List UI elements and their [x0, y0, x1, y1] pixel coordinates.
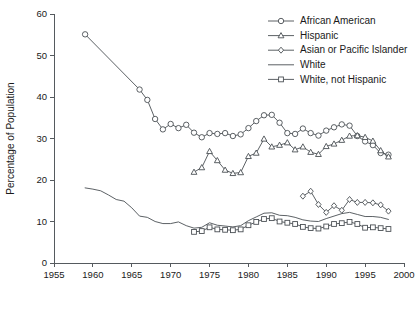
y-tick-label: 10	[36, 216, 47, 227]
legend-label: Hispanic	[300, 30, 338, 41]
data-point-marker	[324, 128, 329, 133]
data-point-marker	[308, 149, 314, 154]
data-point-marker	[199, 165, 205, 170]
series-line	[303, 191, 389, 212]
legend-marker-diamond	[278, 47, 283, 53]
data-point-marker	[215, 227, 220, 232]
chart-legend: African AmericanHispanicAsian or Pacific…	[268, 15, 408, 84]
legend-marker-square	[279, 77, 284, 82]
data-point-marker	[370, 225, 375, 230]
data-point-marker	[339, 221, 344, 226]
x-tick-label: 2000	[393, 269, 414, 280]
x-tick-label: 1965	[121, 269, 142, 280]
data-point-marker	[285, 130, 290, 135]
data-point-marker	[207, 148, 213, 153]
legend-item-asian-or-pacific-islander[interactable]: Asian or Pacific Islander	[268, 44, 408, 55]
data-point-marker	[176, 125, 181, 130]
data-point-marker	[191, 130, 196, 135]
data-point-marker	[355, 222, 360, 227]
data-point-marker	[261, 136, 267, 141]
data-point-marker	[300, 224, 305, 229]
data-point-marker	[292, 131, 297, 136]
data-point-marker	[277, 120, 282, 125]
legend-label: Asian or Pacific Islander	[300, 44, 408, 55]
series-container	[82, 32, 391, 235]
x-tick-label: 1955	[43, 269, 64, 280]
y-tick-label: 60	[36, 8, 47, 19]
x-tick-label: 1995	[355, 269, 376, 280]
data-point-marker	[316, 226, 321, 231]
data-point-marker	[199, 135, 204, 140]
y-axis: 0102030405060	[36, 8, 54, 268]
data-point-marker	[347, 220, 352, 225]
x-tick-label: 1990	[316, 269, 337, 280]
data-point-marker	[300, 144, 306, 149]
data-point-marker	[207, 225, 212, 230]
legend-label: White, not Hispanic	[300, 74, 386, 85]
data-point-marker	[82, 32, 87, 37]
data-point-marker	[192, 229, 197, 234]
y-tick-label: 50	[36, 50, 47, 61]
data-point-marker	[363, 199, 368, 205]
data-point-marker	[386, 227, 391, 232]
data-point-marker	[238, 132, 243, 137]
x-tick-label: 1980	[238, 269, 259, 280]
data-point-marker	[246, 125, 251, 130]
legend-item-white[interactable]: White	[268, 59, 326, 70]
data-point-marker	[261, 113, 266, 118]
data-point-marker	[222, 130, 227, 135]
y-tick-label: 30	[36, 133, 47, 144]
data-point-marker	[137, 87, 142, 92]
data-point-marker	[277, 219, 282, 224]
data-point-marker	[160, 127, 165, 132]
data-point-marker	[246, 223, 251, 228]
legend-label: African American	[300, 15, 376, 26]
data-point-marker	[284, 140, 290, 145]
data-point-marker	[332, 222, 337, 227]
data-point-marker	[378, 202, 383, 208]
data-point-marker	[238, 227, 243, 232]
data-point-marker	[215, 131, 220, 136]
data-point-marker	[324, 224, 329, 229]
data-point-marker	[199, 229, 204, 234]
data-point-marker	[293, 222, 298, 227]
data-point-marker	[331, 141, 337, 146]
x-tick-label: 1985	[277, 269, 298, 280]
data-point-marker	[370, 200, 375, 206]
data-point-marker	[308, 130, 313, 135]
data-point-marker	[300, 193, 305, 199]
data-point-marker	[230, 228, 235, 233]
data-point-marker	[378, 226, 383, 231]
data-point-marker	[238, 170, 244, 175]
data-point-marker	[262, 217, 267, 222]
data-point-marker	[269, 112, 274, 117]
y-tick-label: 0	[42, 257, 47, 268]
y-tick-label: 40	[36, 91, 47, 102]
legend-marker-circle	[278, 18, 283, 23]
data-point-marker	[347, 123, 352, 128]
line-chart: 0102030405060 19551960196519701975198019…	[0, 0, 416, 313]
data-point-marker	[254, 118, 259, 123]
legend-item-white-not-hispanic[interactable]: White, not Hispanic	[268, 74, 386, 85]
legend-item-african-american[interactable]: African American	[268, 15, 376, 26]
data-point-marker	[230, 133, 235, 138]
data-point-marker	[308, 188, 313, 194]
data-point-marker	[355, 199, 360, 205]
data-point-marker	[253, 150, 259, 155]
data-point-marker	[145, 97, 150, 102]
data-point-marker	[168, 121, 173, 126]
data-point-marker	[339, 137, 345, 142]
series-white-not-hispanic	[192, 216, 391, 234]
x-tick-label: 1970	[160, 269, 181, 280]
data-point-marker	[363, 225, 368, 230]
data-point-marker	[152, 116, 157, 121]
data-point-marker	[184, 122, 189, 127]
legend-label: White	[300, 59, 326, 70]
data-point-marker	[386, 208, 391, 214]
data-point-marker	[223, 227, 228, 232]
x-tick-label: 1960	[82, 269, 103, 280]
legend-item-hispanic[interactable]: Hispanic	[268, 30, 338, 41]
data-point-marker	[285, 220, 290, 225]
x-tick-label: 1975	[199, 269, 220, 280]
data-point-marker	[331, 125, 336, 130]
